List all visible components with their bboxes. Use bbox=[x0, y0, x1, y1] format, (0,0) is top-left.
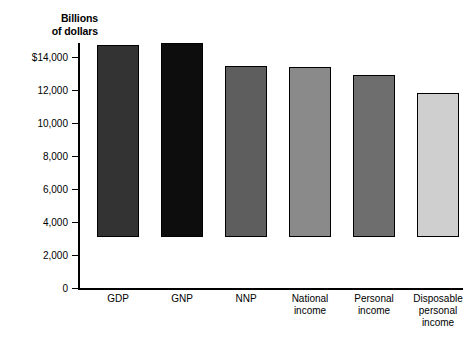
y-axis-tick-label: 6,000 bbox=[0, 184, 68, 195]
bar-slot bbox=[406, 0, 470, 237]
y-axis-tick-label: 4,000 bbox=[0, 217, 68, 228]
bar-personal-income bbox=[353, 75, 395, 237]
y-axis-tick-label: 0 bbox=[0, 283, 68, 294]
bar-slot bbox=[86, 0, 150, 237]
y-axis-tick-label: 12,000 bbox=[0, 85, 68, 96]
bar-disposable-personal-income bbox=[417, 93, 459, 237]
bar-slot bbox=[342, 0, 406, 237]
y-axis-tick-label: $14,000 bbox=[0, 52, 68, 63]
x-axis-tick-label-line: personal bbox=[400, 305, 472, 317]
x-axis-tick-label-line: Disposable bbox=[400, 293, 472, 305]
x-axis-tick-label-line: income bbox=[400, 317, 472, 329]
bar-national-income bbox=[289, 67, 331, 237]
y-axis-tick-label: 8,000 bbox=[0, 151, 68, 162]
x-axis-tick-label: Disposablepersonalincome bbox=[400, 293, 472, 329]
bar-gnp bbox=[161, 43, 203, 237]
bar-gdp bbox=[97, 45, 139, 237]
y-axis-tick-label: 10,000 bbox=[0, 118, 68, 129]
bar-slot bbox=[278, 0, 342, 237]
bar-nnp bbox=[225, 66, 267, 237]
y-axis-tick-label: 2,000 bbox=[0, 250, 68, 261]
bar-chart-figure: Billions of dollars $14,00012,00010,0008… bbox=[0, 0, 472, 341]
bar-series-group bbox=[78, 0, 463, 289]
bar-slot bbox=[150, 0, 214, 237]
bar-slot bbox=[214, 0, 278, 237]
